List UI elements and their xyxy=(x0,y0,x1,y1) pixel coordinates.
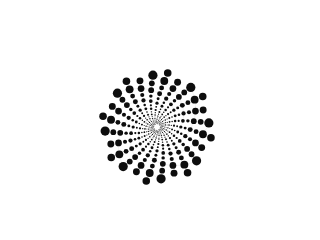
spiral-dot xyxy=(142,120,143,121)
spiral-dot xyxy=(158,120,159,121)
spiral-dot xyxy=(143,158,147,162)
spiral-dot xyxy=(168,135,169,136)
spiral-dot xyxy=(198,119,204,125)
spiral-dot xyxy=(159,119,160,120)
spiral-dot xyxy=(151,128,152,129)
spiral-dot xyxy=(140,93,144,97)
spiral-dot xyxy=(163,130,164,131)
spiral-dot xyxy=(160,116,161,117)
spiral-dot xyxy=(155,133,156,134)
spiral-dot xyxy=(183,134,187,138)
spiral-dot xyxy=(172,142,175,145)
spiral-dot xyxy=(163,116,165,118)
spiral-dot xyxy=(160,77,168,85)
spiral-dot xyxy=(153,131,154,132)
spiral-dot xyxy=(191,96,199,104)
spiral-dot xyxy=(147,123,148,124)
spiral-dot xyxy=(151,135,152,136)
spiral-dot xyxy=(165,124,166,125)
spiral-dot xyxy=(145,139,147,141)
spiral-dot xyxy=(161,122,162,123)
spiral-dot xyxy=(160,130,161,131)
spiral-dot xyxy=(157,132,158,133)
spiral-dot xyxy=(198,144,205,151)
spiral-dot xyxy=(122,113,126,117)
spiral-dot xyxy=(169,128,170,129)
spiral-dot xyxy=(124,131,127,134)
spiral-dot xyxy=(167,125,168,126)
spiral-dot xyxy=(154,141,156,143)
spiral-dot xyxy=(164,123,165,124)
spiral-dot xyxy=(166,141,168,143)
spiral-dot xyxy=(162,128,163,129)
spiral-dot xyxy=(141,148,145,152)
spiral-dot xyxy=(151,125,152,126)
spiral-dot xyxy=(151,132,152,133)
spiral-dot xyxy=(157,131,158,132)
spiral-dot xyxy=(167,118,168,119)
spiral-dot xyxy=(158,138,160,140)
spiral-dot xyxy=(155,112,156,113)
spiral-dot xyxy=(154,123,155,124)
spiral-dot xyxy=(141,112,143,114)
spiral-dot xyxy=(169,131,171,133)
spiral-dot xyxy=(160,161,166,167)
spiral-dot xyxy=(164,126,165,127)
spiral-dot xyxy=(152,127,153,128)
spiral-dot xyxy=(159,130,160,131)
spiral-dot xyxy=(130,94,135,99)
spiral-dot xyxy=(127,124,130,127)
spiral-dot xyxy=(154,154,157,157)
spiral-dot xyxy=(160,124,161,125)
spiral-dot xyxy=(152,137,153,138)
spiral-dot xyxy=(152,131,153,132)
spiral-dot xyxy=(165,122,166,123)
spiral-dot xyxy=(170,162,177,169)
spiral-dot xyxy=(113,89,122,98)
spiral-dot xyxy=(192,156,201,165)
spiral-dot xyxy=(173,134,176,137)
spiral-dot xyxy=(160,123,161,124)
spiral-dot xyxy=(178,120,180,122)
spiral-dot xyxy=(158,114,159,115)
spiral-dot xyxy=(178,113,181,116)
spiral-dot xyxy=(154,123,155,124)
spiral-dot xyxy=(174,114,177,117)
spiral-dot xyxy=(151,114,153,116)
spiral-dot xyxy=(159,85,164,90)
spiral-dot xyxy=(154,118,155,119)
spiral-dot xyxy=(176,106,179,109)
spiral-dot xyxy=(149,94,152,97)
spiral-dot xyxy=(135,145,138,148)
spiral-dot xyxy=(141,136,143,138)
spiral-dot xyxy=(157,91,162,96)
spiral-dot xyxy=(159,125,160,126)
spiral-dot xyxy=(143,115,145,117)
spiral-dot xyxy=(167,92,171,96)
spiral-dot xyxy=(152,126,153,127)
spiral-dot xyxy=(141,132,142,133)
spiral-dot xyxy=(148,116,149,117)
spiral-dot xyxy=(154,130,155,131)
spiral-dot xyxy=(162,129,163,130)
spiral-dot xyxy=(181,111,185,115)
spiral-dot xyxy=(163,120,164,121)
spiral-dot xyxy=(154,131,155,132)
spiral-dot xyxy=(161,129,162,130)
spiral-dot xyxy=(144,121,146,123)
spiral-dot xyxy=(161,127,162,128)
spiral-dot xyxy=(145,117,146,118)
spiral-dot xyxy=(109,103,116,110)
spiral-dot xyxy=(115,140,122,147)
spiral-dot xyxy=(154,132,155,133)
spiral-dot xyxy=(153,129,154,130)
spiral-dot xyxy=(161,128,162,129)
spiral-dot xyxy=(150,120,151,121)
spiral-dot xyxy=(179,155,184,160)
spiral-dot xyxy=(173,99,176,102)
spiral-dot xyxy=(158,129,159,130)
spiral-dot xyxy=(150,164,155,169)
spiral-dot xyxy=(185,100,190,105)
spiral-dot xyxy=(121,122,126,127)
spiral-dot xyxy=(155,137,156,138)
